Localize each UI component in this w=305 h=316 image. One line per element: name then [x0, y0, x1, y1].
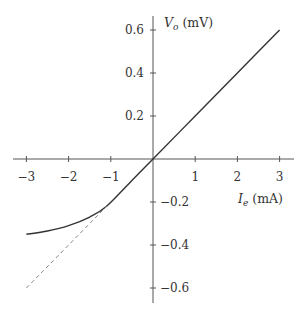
y-tick-label: 0.2 — [125, 109, 144, 123]
x-tick-label: 1 — [191, 170, 199, 184]
y-tick-label: −0.4 — [160, 238, 190, 252]
x-tick-label: 3 — [276, 170, 284, 184]
x-tick-label: −2 — [60, 170, 78, 184]
x-tick-label: −3 — [18, 170, 36, 184]
x-axis-label: Ie (mA) — [237, 191, 283, 208]
chart: −3−2−11230.60.40.2−0.2−0.4−0.6 Vo (mV) I… — [0, 0, 305, 316]
y-axis-label: Vo (mV) — [164, 15, 213, 32]
y-tick-label: 0.6 — [125, 23, 144, 37]
x-tick-label: −1 — [102, 170, 120, 184]
y-tick-label: 0.4 — [125, 66, 144, 80]
dashed-extrapolation-line — [26, 206, 106, 288]
y-tick-label: −0.6 — [160, 281, 189, 295]
x-tick-label: 2 — [234, 170, 242, 184]
y-tick-label: −0.2 — [160, 195, 189, 209]
